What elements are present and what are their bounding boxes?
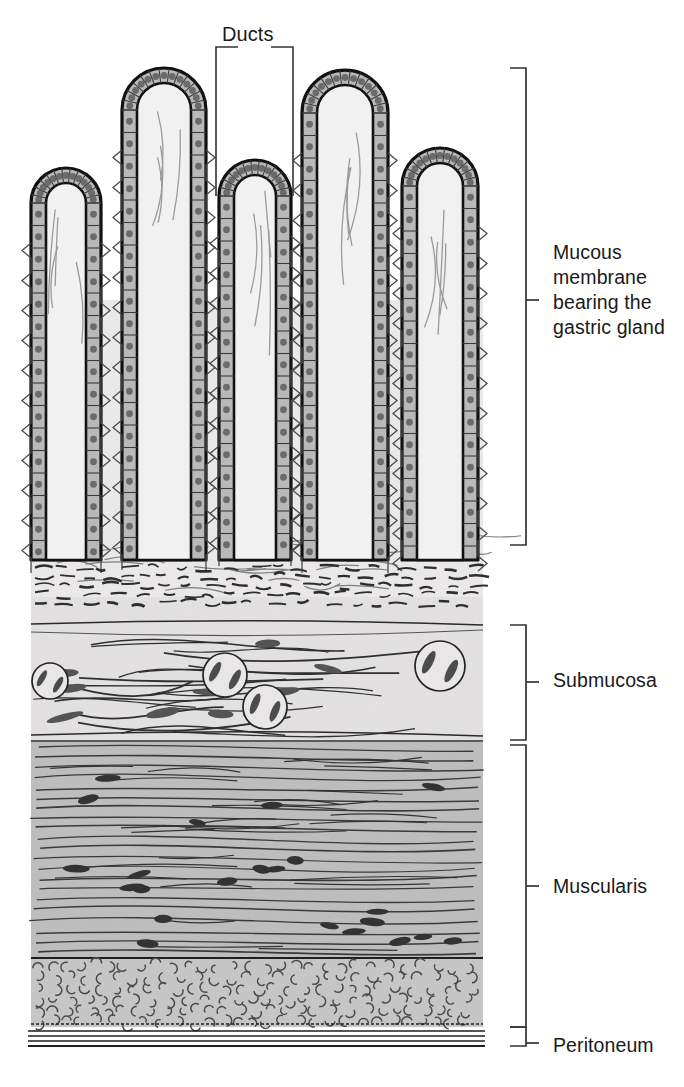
blood-vessel (203, 653, 247, 697)
gastric-gland-villus (210, 160, 300, 566)
peritoneum-layer (28, 1031, 485, 1046)
gastric-gland-villus (393, 148, 487, 571)
label-submucosa: Submucosa (553, 668, 657, 693)
gastric-gland-villus (293, 70, 397, 573)
bracket-submucosa (510, 625, 539, 740)
gastric-gland-villus (113, 68, 215, 570)
blood-vessel (32, 663, 68, 699)
label-muscularis: Muscularis (553, 874, 647, 899)
figure-canvas (0, 0, 684, 1087)
layer-brackets (510, 68, 539, 1046)
blood-vessel (415, 641, 465, 691)
bracket-mucous_membrane (510, 68, 539, 545)
gastric-gland-villus (22, 168, 110, 573)
blood-vessel (243, 685, 287, 729)
label-mucous-membrane: Mucous membrane bearing the gastric glan… (553, 240, 665, 340)
stomach-wall-cross-section (0, 0, 684, 1087)
bracket-peritoneum (510, 1027, 539, 1046)
label-ducts: Ducts (222, 22, 274, 47)
label-peritoneum: Peritoneum (553, 1033, 654, 1058)
bracket-muscularis (510, 745, 539, 1027)
